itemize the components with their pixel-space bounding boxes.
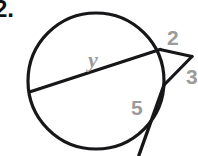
label-segment-3: 3 (186, 66, 198, 87)
label-segment-2: 2 (167, 27, 179, 48)
geometry-figure: 2. y 2 3 5 (0, 0, 198, 156)
label-chord-y: y (88, 49, 98, 71)
geometry-canvas (0, 0, 198, 156)
label-chord-5: 5 (131, 97, 143, 118)
circle-shape (28, 13, 164, 149)
problem-number: 2. (0, 0, 14, 21)
external-segment-2-line (160, 50, 192, 57)
